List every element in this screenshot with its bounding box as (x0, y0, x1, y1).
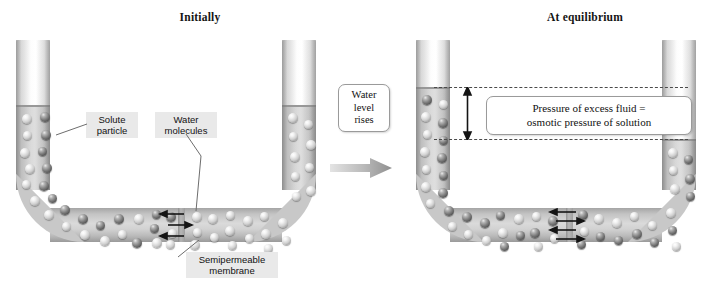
osmotic-pressure-callout: Pressure of excess fluid = osmotic press… (486, 96, 692, 135)
leader-line-water-molecules (172, 134, 202, 212)
leader-line-membrane (176, 240, 200, 258)
membrane-flux-arrows-initially (154, 209, 204, 243)
leader-line-solute (56, 122, 88, 136)
osmosis-figure: Initially At equilibrium (0, 0, 724, 287)
u-tube-initially: Solute particle Water molecules Semiperm… (0, 0, 340, 287)
bottom-right-elbow (628, 174, 696, 242)
water-level-rises-callout: Water level rises (338, 84, 390, 132)
pressure-height-arrow (462, 87, 473, 140)
process-arrow-icon (330, 158, 392, 178)
label-solute-particle: Solute particle (86, 112, 138, 138)
bottom-left-elbow (416, 174, 484, 242)
bottom-right-elbow (248, 174, 316, 242)
bottom-left-elbow (16, 174, 84, 242)
u-tube-at-equilibrium (396, 0, 724, 287)
membrane-flux-arrows-at-equilibrium (540, 208, 594, 244)
